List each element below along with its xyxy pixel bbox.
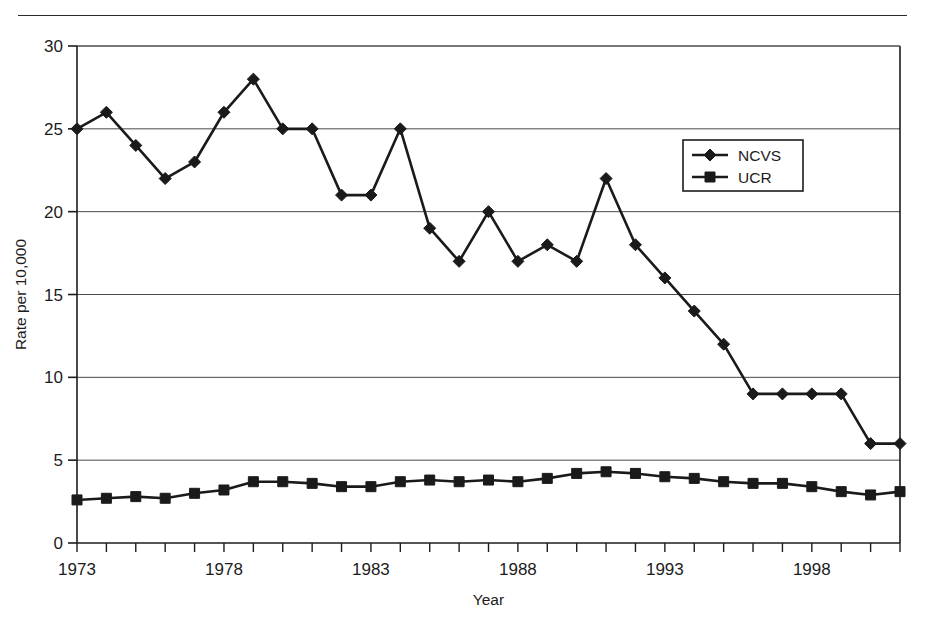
- data-point-ucr: [484, 475, 494, 485]
- data-point-ucr: [572, 468, 582, 478]
- data-point-ucr: [307, 478, 317, 488]
- data-point-ucr: [866, 490, 876, 500]
- data-point-ucr: [777, 478, 787, 488]
- data-point-ncvs: [189, 156, 201, 168]
- data-point-ucr: [454, 477, 464, 487]
- data-point-ncvs: [336, 189, 348, 201]
- y-tick-label: 20: [44, 203, 63, 222]
- data-point-ncvs: [365, 189, 377, 201]
- y-tick-label: 10: [44, 368, 63, 387]
- data-point-ncvs: [747, 388, 759, 400]
- x-tick-label: 1998: [793, 560, 831, 579]
- y-axis-ticks-group: [68, 46, 77, 543]
- data-point-ncvs: [806, 388, 818, 400]
- data-point-ncvs: [512, 255, 524, 267]
- data-point-ncvs: [277, 123, 289, 135]
- data-point-ncvs: [835, 388, 847, 400]
- data-point-ucr: [689, 473, 699, 483]
- y-tick-label: 0: [54, 534, 63, 553]
- legend: NCVSUCR: [683, 140, 803, 191]
- data-point-ucr: [131, 492, 141, 502]
- data-point-ucr: [219, 485, 229, 495]
- axis-labels-group: 051015202530197319781983198819931998Year…: [12, 37, 831, 608]
- data-point-ucr: [248, 477, 258, 487]
- data-point-ucr: [160, 493, 170, 503]
- data-point-ncvs: [600, 173, 612, 185]
- data-point-ucr: [366, 482, 376, 492]
- data-point-ucr: [425, 475, 435, 485]
- legend-marker-ucr: [705, 172, 715, 182]
- legend-label-ncvs: NCVS: [738, 147, 781, 164]
- data-point-ucr: [337, 482, 347, 492]
- y-tick-label: 30: [44, 37, 63, 56]
- x-tick-label: 1973: [58, 560, 96, 579]
- data-point-ncvs: [394, 123, 406, 135]
- data-point-ncvs: [776, 388, 788, 400]
- data-point-ncvs: [865, 438, 877, 450]
- data-point-ucr: [190, 488, 200, 498]
- y-axis-title: Rate per 10,000: [12, 239, 29, 351]
- x-tick-label: 1978: [205, 560, 243, 579]
- data-point-ncvs: [541, 239, 553, 251]
- data-point-ucr: [542, 473, 552, 483]
- legend-label-ucr: UCR: [738, 169, 772, 186]
- y-tick-label: 25: [44, 120, 63, 139]
- line-chart: 051015202530197319781983198819931998Year…: [0, 0, 925, 624]
- y-tick-label: 5: [54, 451, 63, 470]
- x-tick-label: 1988: [499, 560, 537, 579]
- y-tick-label: 15: [44, 286, 63, 305]
- data-point-ucr: [101, 493, 111, 503]
- data-point-ucr: [807, 482, 817, 492]
- data-point-ucr: [278, 477, 288, 487]
- data-series-group: [71, 73, 906, 505]
- gridlines-group: [77, 46, 900, 460]
- x-axis-title: Year: [473, 591, 504, 608]
- data-point-ucr: [836, 487, 846, 497]
- data-point-ucr: [719, 477, 729, 487]
- data-point-ucr: [513, 477, 523, 487]
- data-point-ncvs: [571, 255, 583, 267]
- data-point-ucr: [748, 478, 758, 488]
- x-tick-label: 1993: [646, 560, 684, 579]
- series-line-ncvs: [77, 79, 900, 443]
- chart-figure: 051015202530197319781983198819931998Year…: [0, 0, 925, 624]
- data-point-ucr: [630, 468, 640, 478]
- x-tick-label: 1983: [352, 560, 390, 579]
- data-point-ucr: [395, 477, 405, 487]
- data-point-ncvs: [483, 206, 495, 218]
- data-point-ucr: [660, 472, 670, 482]
- data-point-ncvs: [306, 123, 318, 135]
- data-point-ucr: [601, 467, 611, 477]
- x-axis-ticks-group: [77, 543, 900, 552]
